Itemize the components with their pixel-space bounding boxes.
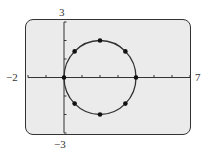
data-point [123, 101, 128, 106]
data-point [72, 101, 77, 106]
data-point [98, 112, 103, 117]
data-point [72, 49, 77, 54]
xmin-label: −2 [6, 72, 18, 83]
ymin-label: −3 [54, 139, 66, 150]
data-point [98, 38, 103, 43]
data-point [123, 49, 128, 54]
data-point [62, 75, 67, 80]
xmax-label: 7 [195, 72, 201, 83]
axes [28, 22, 190, 133]
data-point [134, 75, 139, 80]
ymax-label: 3 [59, 7, 65, 18]
graph-plot [0, 0, 214, 154]
